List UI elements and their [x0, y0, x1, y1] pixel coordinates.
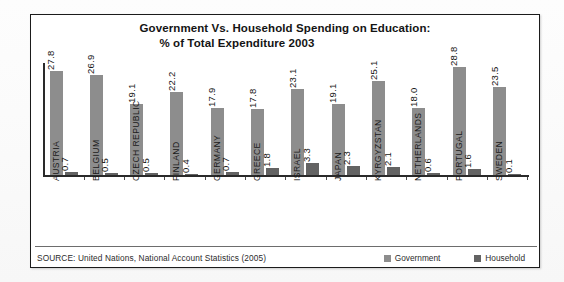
bar-value-label: 23.5	[489, 67, 500, 87]
legend-label: Government	[395, 253, 441, 263]
bar-household[interactable]: 2.3	[347, 166, 360, 175]
bar-value-label: 26.9	[85, 54, 96, 74]
category-label-text: CZECH REPUBLIC	[131, 100, 141, 181]
bar-value-label: 0.5	[140, 158, 151, 172]
bar-value-label: 1.8	[261, 153, 272, 167]
source-note: SOURCE: United Nations, National Account…	[37, 253, 266, 263]
bar-wrapper: 1.8	[264, 168, 279, 175]
category-label: PORTUGAL	[448, 181, 488, 245]
category-label: NETHERLANDS	[407, 181, 447, 245]
category-label-text: SWEDEN	[494, 141, 504, 181]
bar-value-label: 28.8	[448, 47, 459, 67]
category-label-text: JAPAN	[333, 152, 343, 181]
category-label: ISRAEL	[286, 181, 326, 245]
category-label: CZECH REPUBLIC	[125, 181, 165, 245]
category-label: JAPAN	[327, 181, 367, 245]
chart-figure: Government Vs. Household Spending on Edu…	[30, 14, 540, 268]
bar-value-label: 25.1	[368, 61, 379, 81]
bar-value-label: 0.6	[422, 158, 433, 172]
category-label: GERMANY	[206, 181, 246, 245]
category-label-text: PORTUGAL	[454, 131, 464, 181]
footer-separator	[35, 246, 537, 247]
bar-household[interactable]: 1.8	[266, 168, 279, 175]
bar-value-label: 17.9	[206, 87, 217, 107]
bar-value-label: 27.8	[45, 51, 56, 71]
bar-value-label: 17.8	[247, 88, 258, 108]
category-label-text: KYRGYZSTAN	[373, 119, 383, 181]
category-label: BELGIUM	[85, 181, 125, 245]
bar-value-label: 22.2	[166, 71, 177, 91]
bar-value-label: 3.3	[301, 148, 312, 162]
category-label-text: NETHERLANDS	[413, 113, 423, 181]
category-label: GREECE	[246, 181, 286, 245]
bar-wrapper: 2.3	[345, 166, 360, 175]
legend-swatch-icon	[384, 255, 391, 262]
chart-title-line-2: % of Total Expenditure 2003	[31, 36, 539, 51]
bar-value-label: 0.1	[503, 159, 514, 173]
chart-title: Government Vs. Household Spending on Edu…	[31, 21, 539, 51]
category-label: AUSTRIA	[45, 181, 85, 245]
category-label: KYRGYZSTAN	[367, 181, 407, 245]
bar-value-label: 2.1	[382, 152, 393, 166]
category-label: SWEDEN	[488, 181, 528, 245]
category-label-text: FINLAND	[171, 141, 181, 181]
bar-value-label: 19.1	[327, 83, 338, 103]
category-label-text: ISRAEL	[292, 148, 302, 181]
category-label-text: GREECE	[252, 142, 262, 181]
bar-household[interactable]: 2.1	[387, 167, 400, 175]
bar-value-label: 18.0	[408, 87, 419, 107]
legend-item[interactable]: Government	[384, 253, 441, 263]
bar-value-label: 23.1	[287, 68, 298, 88]
chart-title-line-1: Government Vs. Household Spending on Edu…	[31, 21, 539, 36]
chart-legend: GovernmentHousehold	[384, 253, 525, 263]
legend-swatch-icon	[474, 255, 481, 262]
category-label-text: GERMANY	[212, 135, 222, 181]
bar-wrapper: 2.1	[385, 167, 400, 175]
legend-label: Household	[485, 253, 525, 263]
bar-household[interactable]: 3.3	[306, 163, 319, 175]
bar-value-label: 0.4	[180, 158, 191, 172]
page-background: Government Vs. Household Spending on Edu…	[0, 0, 564, 282]
category-label-text: BELGIUM	[91, 140, 101, 181]
category-labels: AUSTRIABELGIUMCZECH REPUBLICFINLANDGERMA…	[45, 181, 529, 245]
category-label-text: AUSTRIA	[51, 141, 61, 181]
bar-wrapper: 3.3	[304, 163, 319, 175]
category-label: FINLAND	[165, 181, 205, 245]
legend-item[interactable]: Household	[474, 253, 525, 263]
